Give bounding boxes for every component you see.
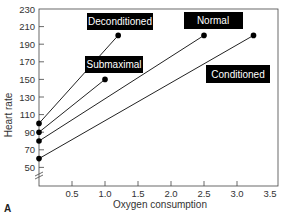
svg-text:Deconditioned: Deconditioned xyxy=(88,16,152,27)
x-tick-label: 0.5 xyxy=(65,188,78,199)
x-tick-label: 2.0 xyxy=(164,188,177,199)
x-tick-label: 1.5 xyxy=(131,188,144,199)
y-tick-label: 130 xyxy=(19,92,35,103)
x-tick-label: 1.0 xyxy=(98,188,111,199)
data-point xyxy=(102,77,108,83)
label-submaximal: Submaximal xyxy=(85,56,143,73)
plot-frame xyxy=(39,9,278,186)
y-tick-label: 90 xyxy=(24,127,35,138)
series-group xyxy=(36,33,256,162)
y-tick-label: 170 xyxy=(19,56,35,67)
y-axis-label: Heart rate xyxy=(3,92,14,137)
chart: 230210190170150130110907050 0.51.01.52.0… xyxy=(0,0,285,217)
series-conditioned xyxy=(36,33,256,162)
y-axis: 230210190170150130110907050 xyxy=(19,4,44,173)
svg-text:Conditioned: Conditioned xyxy=(211,69,264,80)
x-tick-label: 3.0 xyxy=(230,188,243,199)
y-tick-label: 210 xyxy=(19,21,35,32)
label-deconditioned: Deconditioned xyxy=(87,13,153,30)
x-axis: 0.51.01.52.02.53.03.5 xyxy=(65,181,276,199)
y-tick-label: 110 xyxy=(20,109,35,120)
svg-text:Submaximal: Submaximal xyxy=(86,59,141,70)
label-normal: Normal xyxy=(184,12,243,29)
panel-label: A xyxy=(4,203,11,214)
svg-text:Normal: Normal xyxy=(197,15,229,26)
y-tick-label: 150 xyxy=(19,74,35,85)
y-tick-label: 70 xyxy=(24,144,35,155)
x-axis-label: Oxygen consumption xyxy=(113,199,207,210)
y-tick-label: 230 xyxy=(19,4,35,15)
label-conditioned: Conditioned xyxy=(206,65,270,83)
series-normal xyxy=(36,33,207,144)
data-point xyxy=(36,121,42,127)
x-tick-label: 3.5 xyxy=(263,188,276,199)
data-point xyxy=(251,33,257,39)
data-point xyxy=(36,138,42,144)
data-point xyxy=(115,33,121,39)
data-point xyxy=(201,33,207,39)
series-submaximal xyxy=(36,77,108,135)
y-tick-label: 50 xyxy=(24,162,35,173)
data-point xyxy=(36,156,42,162)
data-point xyxy=(36,129,42,135)
y-tick-label: 190 xyxy=(19,39,35,50)
series-deconditioned xyxy=(36,33,121,127)
x-tick-label: 2.5 xyxy=(197,188,210,199)
